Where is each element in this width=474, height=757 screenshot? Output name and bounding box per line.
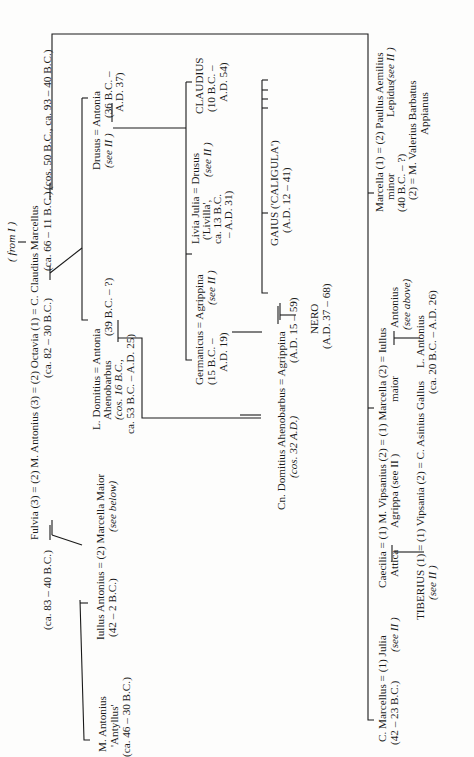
antonia-minor-dates-end: A.D. 37) <box>113 72 126 112</box>
claudius-name: CLAUDIUS <box>193 57 205 114</box>
octavia-dates: (ca. 66 – 11 B.C.) <box>41 191 54 271</box>
stemma-diagram: ( from I ) Fulvia (3) = (2) M. Antonius … <box>0 0 474 757</box>
c-marcellus-dates: (42 – 23 B.C.) <box>388 680 401 745</box>
marcella-maior-see-below: (see below) <box>106 480 119 532</box>
marcella-maior-line2: maior <box>388 376 400 402</box>
antyllus-nickname: 'Antyllus' <box>108 704 120 747</box>
germanicus-marriage: Germanicus = Agrippina <box>193 274 205 385</box>
tiberius-see-ii: (see II ) <box>426 565 439 600</box>
claudius-dates-end: A.D. 54) <box>217 62 230 102</box>
l-domitius-dates: ca. 53 B.C. – A.D. 25) <box>124 334 137 434</box>
iullus-see-above: (see above) <box>400 278 413 330</box>
drusus-see-ii: (see II ) <box>102 133 115 168</box>
nero-name: NERO <box>308 304 320 334</box>
lepidus-see-ii: (see II ) <box>384 47 397 82</box>
from-reference-label: ( from I ) <box>5 221 18 262</box>
agrippina-see-ii: (see II ) <box>205 270 218 305</box>
connector-lines <box>18 34 424 740</box>
germanicus-dates-end: A.D. 19) <box>217 332 230 372</box>
l-antonius-name: L. Antonius <box>414 315 426 368</box>
antyllus-dates: (ca. 46 – 30 B.C.) <box>120 677 133 757</box>
julia-see-ii: (see II ) <box>388 617 401 652</box>
antonia-maior-dates: (39 B.C. – ?) <box>102 278 115 336</box>
scanned-page: ( from I ) Fulvia (3) = (2) M. Antonius … <box>0 0 474 757</box>
nero-dates: (A.D. 37 – 68) <box>320 283 333 349</box>
iullus-dates: (42 – 2 B.C.) <box>106 578 119 637</box>
livilla-dates-end: – A.D. 31) <box>222 190 235 239</box>
fulvia-dates: (ca. 83 – 40 B.C.) <box>41 550 54 630</box>
cn-domitius-consul: (cos. 32 A.D.) <box>287 415 300 478</box>
gen1-spouses-line: Fulvia (3) = (2) M. Antonius (3) = (2) O… <box>28 205 41 540</box>
cn-domitius-marriage: Cn. Domitius Ahenobarbus = Agrippina <box>275 331 287 510</box>
drusus-minor-see-ii: (see II ) <box>201 142 214 177</box>
agrippina-minor-dates: (A.D. 15 – 59) <box>287 297 300 363</box>
antonius-dates: (ca. 82 – 30 B.C.) <box>41 298 54 378</box>
caecilia-attica-line2: Attica <box>388 550 400 577</box>
antyllus-name: M. Antonius <box>96 696 108 752</box>
marcellus-dates: (cos. 50 B.C., ca. 93 – 40 B.C.) <box>41 49 54 190</box>
drusus-marriage: Drusus = Antonia <box>90 91 102 170</box>
l-antonius-dates: (ca. 20 B.C. – A.D. 26) <box>426 290 439 394</box>
lepidus-line2: Lepidus <box>384 81 396 117</box>
barbatus-line2: Appianus <box>418 92 430 135</box>
iullus-antonius-line2: Antonius <box>388 287 400 328</box>
agrippa-line2: Agrippa (see II ) <box>388 453 401 528</box>
gaius-dates: (A.D. 12 – 41) <box>280 167 293 233</box>
